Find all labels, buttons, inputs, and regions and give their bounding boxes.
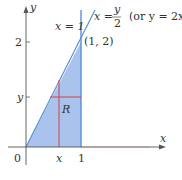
point-label: (1, 2) [84, 35, 114, 48]
diagonal-line-lhs: x = [94, 10, 113, 23]
y-axis-label: y [29, 1, 37, 14]
x-axis-arrow-icon [159, 145, 166, 150]
x-axis-label: x [160, 132, 167, 145]
diagonal-frac-den: 2 [114, 17, 121, 30]
vertical-line-label: x = 1 [55, 20, 84, 33]
diagonal-frac-num: y [113, 3, 121, 16]
region-diagram: y x 0 x 1 2 y x = 1 x = y 2 (or y = 2x) … [0, 0, 182, 180]
x-tick-1-label: 1 [78, 152, 85, 165]
origin-label: 0 [14, 152, 21, 165]
y-tick-2-label: 2 [15, 36, 22, 49]
region-label: R [61, 103, 70, 116]
x-tick-var-label: x [56, 152, 63, 165]
diagonal-line-alt: (or y = 2x) [129, 10, 182, 23]
y-tick-var-label: y [16, 91, 24, 104]
y-axis-arrow-icon [24, 6, 29, 13]
